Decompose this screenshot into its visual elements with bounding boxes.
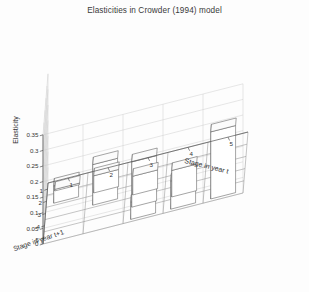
grid-line-horizontal xyxy=(43,152,48,213)
z-tick-label: 0.35 xyxy=(26,131,39,138)
bar-face-front xyxy=(211,126,236,199)
y-tick-label: 1 xyxy=(40,187,44,194)
floor-line xyxy=(83,173,88,234)
x-tick-label: 5 xyxy=(229,140,233,147)
grid-line-horizontal xyxy=(43,105,48,166)
z-tick-label: 0.15 xyxy=(26,193,39,200)
floor-line xyxy=(243,132,248,193)
z-axis-title: Elasticity xyxy=(12,116,20,144)
y-tick-label: 2 xyxy=(39,199,43,206)
grid-line-horizontal xyxy=(43,121,48,182)
z-axis-tick xyxy=(40,228,43,229)
grid-line-horizontal xyxy=(43,89,48,150)
bar3-plot: 00.050.10.150.20.250.30.35Elasticity1234… xyxy=(0,0,309,292)
floor-line xyxy=(163,152,168,213)
x-tick-label: 4 xyxy=(189,150,193,157)
grid-line-horizontal xyxy=(43,74,48,135)
floor-line xyxy=(203,142,208,203)
z-tick-label: 0.3 xyxy=(30,147,39,154)
bar-3d xyxy=(211,118,236,199)
z-axis-tick xyxy=(40,244,43,245)
z-tick-label: 0.2 xyxy=(30,178,39,185)
figure-canvas: Elasticities in Crowder (1994) model 00.… xyxy=(0,0,309,292)
x-tick-label: 2 xyxy=(109,171,113,178)
floor-line xyxy=(123,163,128,224)
z-axis-tick xyxy=(40,166,43,167)
z-axis-tick xyxy=(40,135,43,136)
x-tick-label: 1 xyxy=(69,181,73,188)
x-tick-label: 3 xyxy=(149,161,153,168)
z-axis-tick xyxy=(40,182,43,183)
z-tick-label: 0.25 xyxy=(26,162,39,169)
y-tick-label: 4 xyxy=(37,223,41,230)
z-axis-tick xyxy=(40,150,43,151)
y-tick-label: 3 xyxy=(38,211,42,218)
